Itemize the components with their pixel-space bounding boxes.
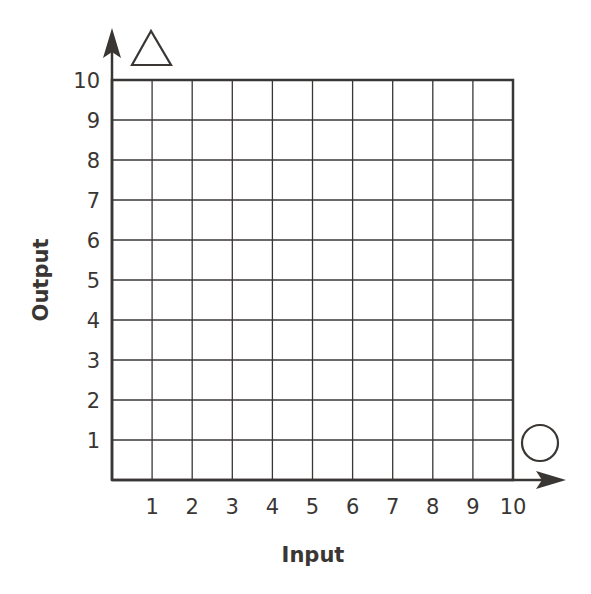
x-tick-label: 2 (186, 495, 199, 519)
y-tick-label: 9 (87, 109, 100, 133)
circle-icon (522, 425, 558, 461)
x-tick-label: 8 (426, 495, 439, 519)
x-axis-title: Input (282, 543, 345, 567)
x-tick-label: 6 (346, 495, 359, 519)
y-tick-label: 10 (73, 69, 100, 93)
y-axis-title: Output (29, 239, 53, 322)
y-tick-label: 6 (87, 229, 100, 253)
y-tick-labels: 12345678910 (73, 69, 100, 453)
grid-svg: 12345678910 12345678910 Input Output (0, 0, 591, 594)
x-tick-label: 9 (466, 495, 479, 519)
y-tick-label: 4 (87, 309, 100, 333)
x-tick-label: 1 (145, 495, 158, 519)
y-tick-label: 7 (87, 189, 100, 213)
x-tick-label: 3 (226, 495, 239, 519)
triangle-icon (132, 31, 171, 65)
y-tick-label: 5 (87, 269, 100, 293)
x-tick-label: 10 (500, 495, 527, 519)
x-tick-label: 7 (386, 495, 399, 519)
x-tick-label: 4 (266, 495, 279, 519)
x-tick-label: 5 (306, 495, 319, 519)
x-tick-labels: 12345678910 (145, 495, 526, 519)
coordinate-grid-diagram: 12345678910 12345678910 Input Output (0, 0, 591, 594)
y-tick-label: 1 (87, 429, 100, 453)
y-tick-label: 2 (87, 389, 100, 413)
y-tick-label: 3 (87, 349, 100, 373)
grid-lines (112, 80, 513, 480)
y-tick-label: 8 (87, 149, 100, 173)
